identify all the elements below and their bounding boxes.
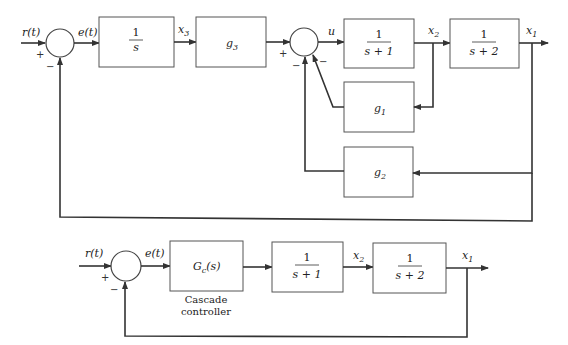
- plant2-block: [450, 19, 519, 68]
- bottom-diagram: r(t) + − e(t) Gc(s) Cascade controller 1…: [79, 241, 488, 337]
- bottom-x2-label: x2: [353, 249, 364, 264]
- integrator-den: s: [133, 41, 139, 54]
- x3-label: x3: [178, 23, 189, 38]
- summing-junction-1: [46, 29, 74, 57]
- bottom-plus-sign: +: [101, 272, 109, 283]
- g2-to-sum2-wire: [305, 57, 344, 171]
- bottom-plant1-num: 1: [304, 251, 311, 264]
- bottom-plant2-block: [373, 243, 446, 293]
- input-label: r(t): [22, 26, 40, 39]
- bottom-input-label: r(t): [85, 247, 103, 260]
- bottom-error-label: e(t): [145, 247, 165, 260]
- x1-label: x1: [526, 24, 537, 39]
- sum2-plus-sign: +: [279, 48, 287, 59]
- sum1-plus-sign: +: [36, 49, 44, 60]
- top-diagram: r(t) + − e(t) 1 s x3 g3 + − − u 1 s + 1: [21, 17, 548, 221]
- bottom-plant2-den: s + 2: [396, 269, 425, 282]
- controller-caption-line1: Cascade: [185, 294, 228, 305]
- bottom-plant2-num: 1: [407, 252, 414, 265]
- controller-label: Gc(s): [193, 260, 221, 275]
- summing-junction-2: [290, 28, 318, 56]
- sum2-minus-right: −: [319, 56, 327, 67]
- sum2-minus-left: −: [292, 60, 300, 71]
- bottom-plant1-den: s + 1: [293, 268, 322, 281]
- g1-to-sum2-wire: [313, 55, 344, 107]
- controller-caption-line2: controller: [181, 306, 231, 317]
- bottom-plant1-block: [272, 242, 343, 292]
- plant1-den: s + 1: [365, 45, 394, 58]
- u-label: u: [328, 25, 335, 38]
- error-label: e(t): [78, 26, 98, 39]
- integrator-num: 1: [133, 26, 140, 39]
- sum1-minus-sign: −: [46, 61, 54, 72]
- plant2-den: s + 2: [470, 45, 499, 58]
- bottom-minus-sign: −: [110, 284, 118, 295]
- plant1-num: 1: [376, 28, 383, 41]
- bottom-x1-label: x1: [462, 249, 473, 264]
- bottom-summing-junction: [111, 251, 141, 281]
- plant2-num: 1: [481, 28, 488, 41]
- outer-feedback-wire: [60, 58, 532, 221]
- x2-to-g1-wire: [414, 43, 433, 107]
- x2-label: x2: [428, 24, 439, 39]
- block-diagrams: r(t) + − e(t) 1 s x3 g3 + − − u 1 s + 1: [0, 0, 568, 345]
- plant1-block: [344, 19, 414, 68]
